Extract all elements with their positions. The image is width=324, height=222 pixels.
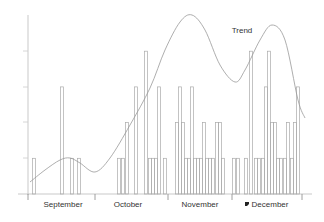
bar — [194, 158, 197, 194]
bar — [216, 123, 219, 194]
bar — [164, 158, 167, 194]
bar — [237, 158, 240, 194]
bar — [291, 158, 294, 194]
bar — [197, 158, 200, 194]
month-label-november: November — [182, 200, 219, 209]
bar — [277, 158, 280, 194]
bar — [287, 123, 290, 194]
trend-bar-chart: September October November December Tren… — [0, 0, 324, 222]
bar — [61, 87, 64, 194]
month-label-december: December — [252, 200, 289, 209]
bar — [122, 158, 125, 194]
bar — [158, 87, 161, 194]
bar — [294, 123, 297, 194]
bar — [185, 158, 188, 194]
month-label-october: October — [114, 200, 143, 209]
bar — [209, 158, 212, 194]
bar — [152, 158, 155, 194]
bar — [271, 123, 274, 194]
bar — [149, 158, 152, 194]
bar — [262, 158, 265, 194]
bar — [219, 123, 222, 194]
bar — [155, 158, 158, 194]
bar — [118, 158, 121, 194]
bar — [135, 87, 138, 194]
bar — [222, 158, 225, 194]
axes — [18, 15, 312, 200]
bar — [258, 158, 261, 194]
bar — [274, 123, 277, 194]
month-label-september: September — [43, 200, 82, 209]
bar — [212, 158, 215, 194]
trend-line — [30, 15, 305, 182]
bar — [233, 158, 236, 194]
bar — [126, 123, 129, 194]
bars — [33, 51, 300, 194]
bar — [188, 158, 191, 194]
bar — [179, 87, 182, 194]
bar — [265, 87, 268, 194]
bar — [200, 158, 203, 194]
bar — [206, 158, 209, 194]
bar — [245, 158, 248, 194]
bar — [268, 51, 271, 194]
bar — [145, 51, 148, 194]
bar — [176, 123, 179, 194]
bar — [71, 158, 74, 194]
bar — [191, 87, 194, 194]
bar — [182, 123, 185, 194]
trend-annotation: Trend — [232, 26, 253, 35]
bar — [78, 158, 81, 194]
bar — [33, 158, 36, 194]
bar — [250, 51, 253, 194]
month-labels: September October November December — [43, 200, 288, 209]
bar — [280, 158, 283, 194]
bar — [284, 158, 287, 194]
bar — [255, 158, 258, 194]
cursor-icon — [245, 202, 249, 206]
bar — [203, 123, 206, 194]
